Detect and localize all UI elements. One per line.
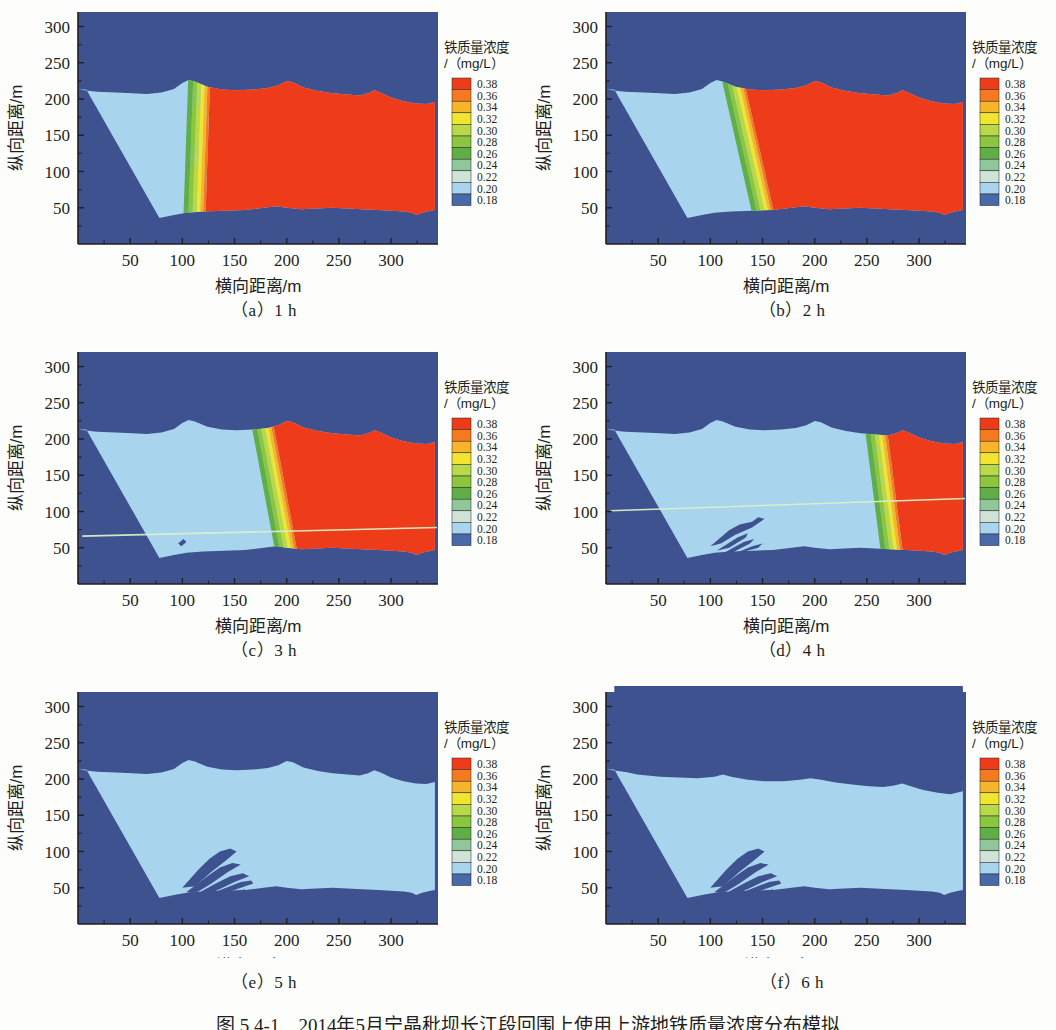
svg-text:0.24: 0.24 [1005,499,1025,511]
svg-text:0.24: 0.24 [477,499,497,511]
svg-text:0.22: 0.22 [1005,851,1025,863]
svg-text:0.30: 0.30 [477,125,497,137]
svg-text:0.34: 0.34 [1005,441,1025,453]
svg-text:0.30: 0.30 [1005,805,1025,817]
svg-text:0.20: 0.20 [477,863,497,875]
svg-text:150: 150 [750,591,776,610]
contour-plot-c: 5010015020025030050100150200250300横向距离/m… [0,340,528,640]
svg-text:150: 150 [222,931,248,950]
svg-text:0.38: 0.38 [477,78,497,90]
svg-text:/（mg/L）: /（mg/L） [444,396,504,411]
svg-text:铁质量浓度: 铁质量浓度 [444,720,509,735]
panel-b: 5010015020025030050100150200250300横向距离/m… [528,0,1056,340]
svg-text:0.22: 0.22 [1005,171,1025,183]
svg-text:100: 100 [698,931,724,950]
panel-caption-f: （f）6 h [528,968,1056,993]
svg-text:0.18: 0.18 [477,194,497,206]
svg-text:0.18: 0.18 [477,534,497,546]
svg-text:200: 200 [45,430,71,449]
svg-text:/（mg/L）: /（mg/L） [972,736,1032,751]
svg-text:300: 300 [45,18,71,37]
svg-text:0.22: 0.22 [477,511,497,523]
svg-text:50: 50 [581,199,598,218]
svg-text:250: 250 [326,931,352,950]
svg-text:0.32: 0.32 [477,113,497,125]
svg-text:100: 100 [698,251,724,270]
svg-text:200: 200 [573,90,599,109]
svg-text:0.26: 0.26 [1005,488,1025,500]
svg-text:0.18: 0.18 [1005,194,1025,206]
svg-text:100: 100 [45,163,71,182]
panel-f: 5010015020025030050100150200250300横向距离/m… [528,680,1056,998]
svg-text:300: 300 [573,698,599,717]
svg-text:100: 100 [573,503,599,522]
svg-text:横向距离/m: 横向距离/m [743,277,830,296]
svg-text:300: 300 [378,591,404,610]
svg-text:300: 300 [906,591,932,610]
svg-text:0.24: 0.24 [477,159,497,171]
svg-text:50: 50 [122,931,139,950]
panel-a: 5010015020025030050100150200250300横向距离/m… [0,0,528,340]
svg-text:250: 250 [573,54,599,73]
svg-text:0.38: 0.38 [477,758,497,770]
svg-text:200: 200 [274,591,300,610]
svg-text:300: 300 [378,251,404,270]
svg-text:0.28: 0.28 [1005,476,1025,488]
svg-text:横向距离/m: 横向距离/m [743,957,830,958]
svg-text:300: 300 [45,698,71,717]
svg-text:0.38: 0.38 [1005,418,1025,430]
svg-text:250: 250 [854,931,880,950]
svg-text:铁质量浓度: 铁质量浓度 [972,40,1037,55]
svg-text:250: 250 [45,394,71,413]
svg-text:50: 50 [650,591,667,610]
svg-text:200: 200 [573,770,599,789]
svg-text:250: 250 [854,251,880,270]
svg-text:铁质量浓度: 铁质量浓度 [444,40,509,55]
svg-text:150: 150 [45,466,71,485]
svg-text:纵向距离/m: 纵向距离/m [7,85,26,172]
svg-text:0.30: 0.30 [1005,125,1025,137]
svg-text:/（mg/L）: /（mg/L） [972,396,1032,411]
svg-text:150: 150 [750,931,776,950]
svg-text:0.20: 0.20 [1005,863,1025,875]
svg-text:0.26: 0.26 [477,148,497,160]
svg-text:0.32: 0.32 [1005,113,1025,125]
svg-text:50: 50 [53,539,70,558]
svg-text:0.36: 0.36 [477,770,497,782]
svg-text:0.22: 0.22 [1005,511,1025,523]
svg-text:50: 50 [650,251,667,270]
svg-text:50: 50 [581,879,598,898]
svg-text:0.30: 0.30 [477,805,497,817]
svg-text:250: 250 [326,251,352,270]
svg-text:0.38: 0.38 [1005,78,1025,90]
svg-text:150: 150 [222,591,248,610]
svg-text:/（mg/L）: /（mg/L） [972,56,1032,71]
svg-text:0.30: 0.30 [1005,465,1025,477]
svg-text:/（mg/L）: /（mg/L） [444,56,504,71]
svg-text:200: 200 [802,591,828,610]
svg-text:200: 200 [802,931,828,950]
panel-caption-a: （a）1 h [0,296,528,321]
svg-text:100: 100 [45,503,71,522]
svg-text:0.32: 0.32 [477,793,497,805]
svg-text:0.28: 0.28 [1005,136,1025,148]
svg-text:0.26: 0.26 [477,488,497,500]
svg-text:0.18: 0.18 [1005,874,1025,886]
svg-text:0.36: 0.36 [477,430,497,442]
panel-caption-e: （e）5 h [0,968,528,993]
svg-text:0.22: 0.22 [477,171,497,183]
svg-text:0.26: 0.26 [1005,828,1025,840]
svg-text:100: 100 [170,591,196,610]
svg-text:横向距离/m: 横向距离/m [215,957,302,958]
svg-text:0.32: 0.32 [1005,453,1025,465]
svg-text:0.26: 0.26 [1005,148,1025,160]
svg-text:300: 300 [906,251,932,270]
panel-caption-d: （d）4 h [528,636,1056,661]
svg-text:300: 300 [573,18,599,37]
svg-text:0.36: 0.36 [477,90,497,102]
svg-text:300: 300 [906,931,932,950]
svg-text:250: 250 [573,734,599,753]
svg-text:0.32: 0.32 [1005,793,1025,805]
svg-text:100: 100 [45,843,71,862]
